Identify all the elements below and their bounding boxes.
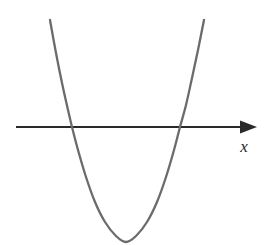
figure-background	[0, 0, 270, 245]
parabola-figure-svg: x	[0, 0, 270, 245]
figure-canvas: x	[0, 0, 270, 245]
x-axis-label: x	[239, 137, 248, 156]
